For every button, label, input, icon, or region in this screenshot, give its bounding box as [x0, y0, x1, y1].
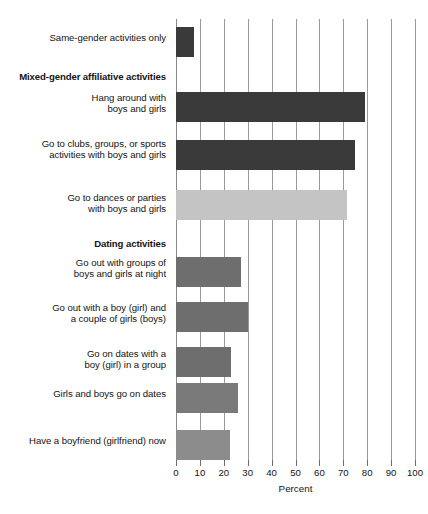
- bar: [176, 383, 238, 413]
- tick-label-100: 100: [407, 466, 423, 479]
- tick-label-20: 20: [218, 466, 229, 479]
- group-header-label: Mixed-gender affiliative activities: [19, 71, 166, 82]
- tick-label-80: 80: [362, 466, 373, 479]
- bar: [176, 257, 241, 287]
- gridline-30: [248, 19, 249, 460]
- category-label: Go out with a boy (girl) and a couple of…: [52, 302, 166, 325]
- gridline-60: [319, 19, 320, 460]
- gridline-40: [272, 19, 273, 460]
- bar: [176, 302, 248, 332]
- bar: [176, 347, 231, 377]
- tick-label-50: 50: [290, 466, 301, 479]
- category-label: Same-gender activities only: [50, 32, 167, 43]
- x-axis-title: Percent: [176, 483, 415, 494]
- category-label: Have a boyfriend (girlfriend) now: [29, 435, 166, 446]
- bar: [176, 140, 355, 170]
- category-label: Hang around with boys and girls: [92, 92, 166, 115]
- bar: [176, 92, 365, 122]
- category-label: Go to clubs, groups, or sports activitie…: [42, 138, 166, 161]
- gridline-90: [391, 19, 392, 460]
- gridline-100: [415, 19, 416, 460]
- tick-label-70: 70: [338, 466, 349, 479]
- bar-chart: Same-gender activities onlyMixed-gender …: [0, 0, 428, 514]
- group-header-label: Dating activities: [94, 238, 166, 249]
- axis-tick-labels: 0102030405060708090100: [176, 466, 415, 480]
- tick-label-90: 90: [386, 466, 397, 479]
- tick-label-0: 0: [173, 466, 178, 479]
- tick-label-40: 40: [266, 466, 277, 479]
- category-label: Girls and boys go on dates: [53, 388, 166, 399]
- bar: [176, 430, 230, 460]
- plot-area: [176, 19, 415, 460]
- category-label: Go out with groups of boys and girls at …: [74, 257, 166, 280]
- gridline-70: [343, 19, 344, 460]
- category-label-column: Same-gender activities onlyMixed-gender …: [0, 0, 172, 514]
- category-label: Go to dances or parties with boys and gi…: [67, 192, 166, 215]
- gridline-80: [367, 19, 368, 460]
- gridline-50: [296, 19, 297, 460]
- category-label: Go on dates with a boy (girl) in a group: [84, 348, 166, 371]
- tick-label-10: 10: [195, 466, 206, 479]
- tick-label-30: 30: [242, 466, 253, 479]
- tick-label-60: 60: [314, 466, 325, 479]
- bar: [176, 27, 194, 57]
- bar: [176, 190, 347, 220]
